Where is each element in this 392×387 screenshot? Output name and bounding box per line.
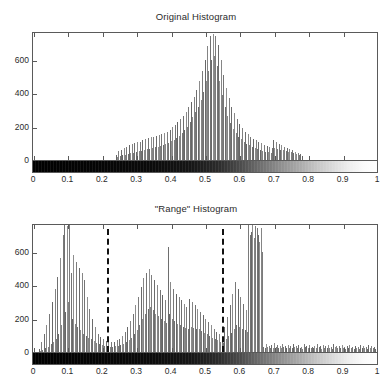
x-tick-label: 0.9: [337, 366, 349, 376]
axes-original: [32, 32, 378, 161]
y-tick-label: 200: [15, 314, 29, 324]
x-tick-label: 1: [375, 174, 380, 184]
x-tick-mark-top: [137, 33, 138, 37]
x-tick-label: 0.9: [337, 174, 349, 184]
x-tick-label: 0.2: [96, 174, 108, 184]
bar-series-original: [33, 33, 377, 160]
y-tick-mark: [33, 253, 37, 254]
x-tick-label: 0.7: [268, 174, 280, 184]
y-tick-mark: [33, 286, 37, 287]
threshold-dashed-line: [222, 229, 224, 352]
x-tick-label: 0.1: [61, 366, 73, 376]
threshold-dashed-line: [107, 229, 109, 352]
x-tick-label: 0.4: [165, 174, 177, 184]
x-tick-mark-top: [68, 225, 69, 229]
x-tick-mark-top: [309, 225, 310, 229]
x-tick-label: 0.5: [199, 174, 211, 184]
x-tick-label: 0.6: [233, 174, 245, 184]
figure-canvas: Original Histogram 0200400600 00.10.20.3…: [0, 0, 392, 387]
x-tick-mark-top: [34, 225, 35, 229]
x-tick-mark-top: [344, 33, 345, 37]
y-tick-label: 600: [15, 55, 29, 65]
x-tick-mark-top: [34, 33, 35, 37]
x-tick-label: 0.7: [268, 366, 280, 376]
y-tick-label: 0: [24, 347, 29, 357]
x-tick-mark-top: [275, 225, 276, 229]
x-axis-original: 00.10.20.30.40.50.60.70.80.91: [32, 174, 378, 188]
x-tick-label: 0.5: [199, 366, 211, 376]
plot-title-original: Original Histogram: [0, 11, 392, 22]
y-tick-label: 200: [15, 122, 29, 132]
x-tick-mark-top: [240, 225, 241, 229]
x-tick-mark-top: [172, 33, 173, 37]
x-tick-label: 0.8: [302, 366, 314, 376]
y-tick-label: 400: [15, 88, 29, 98]
x-tick-mark-top: [103, 33, 104, 37]
y-tick-label: 0: [24, 155, 29, 165]
x-tick-mark-top: [240, 33, 241, 37]
plot-title-range: "Range" Histogram: [0, 203, 392, 214]
x-tick-mark-top: [206, 33, 207, 37]
x-tick-mark-top: [103, 225, 104, 229]
x-tick-mark-top: [275, 33, 276, 37]
y-tick-label: 600: [15, 247, 29, 257]
axes-range: [32, 224, 378, 353]
x-tick-mark-top: [137, 225, 138, 229]
bar-series-range: [33, 225, 377, 352]
x-tick-label: 0.8: [302, 174, 314, 184]
x-tick-mark-top: [172, 225, 173, 229]
y-tick-mark: [33, 61, 37, 62]
x-tick-label: 0.3: [130, 174, 142, 184]
grayscale-colorbar-original: [32, 160, 378, 173]
x-tick-mark-top: [309, 33, 310, 37]
panel-original-histogram: Original Histogram 0200400600 00.10.20.3…: [0, 0, 392, 195]
histogram-bar: [262, 252, 263, 352]
grayscale-colorbar-range: [32, 352, 378, 365]
x-tick-mark-top: [206, 225, 207, 229]
x-tick-mark-top: [68, 33, 69, 37]
x-tick-label: 0.1: [61, 174, 73, 184]
y-tick-mark: [33, 320, 37, 321]
x-tick-label: 0.3: [130, 366, 142, 376]
y-axis-original: 0200400600: [0, 32, 29, 161]
panel-range-histogram: "Range" Histogram 0200400600 00.10.20.30…: [0, 192, 392, 387]
y-tick-label: 400: [15, 280, 29, 290]
x-axis-range: 00.10.20.30.40.50.60.70.80.91: [32, 366, 378, 380]
colorbar-texture: [33, 353, 377, 364]
x-tick-label: 0: [31, 366, 36, 376]
x-tick-label: 0.2: [96, 366, 108, 376]
y-axis-range: 0200400600: [0, 224, 29, 353]
x-tick-label: 0: [31, 174, 36, 184]
x-tick-label: 0.6: [233, 366, 245, 376]
x-tick-mark-top: [344, 225, 345, 229]
x-tick-label: 1: [375, 366, 380, 376]
x-tick-label: 0.4: [165, 366, 177, 376]
y-tick-mark: [33, 128, 37, 129]
y-tick-mark: [33, 94, 37, 95]
colorbar-texture: [33, 161, 377, 172]
